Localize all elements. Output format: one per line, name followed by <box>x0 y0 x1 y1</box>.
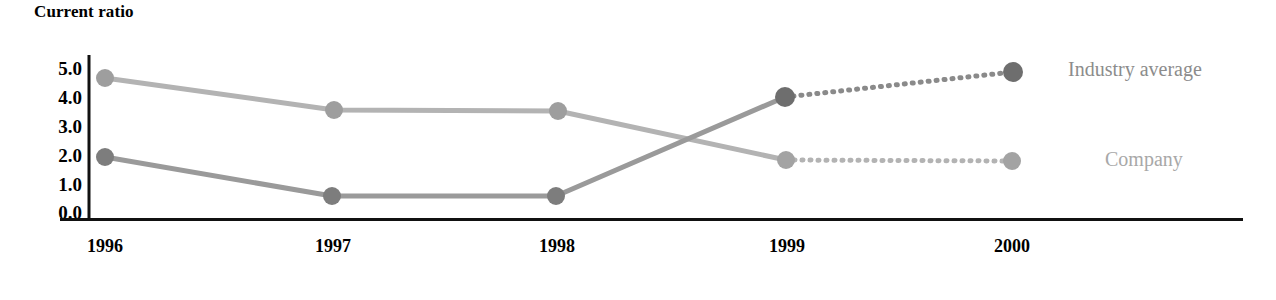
data-point-company-1998 <box>547 187 565 205</box>
legend-label-company: Company <box>1105 148 1183 171</box>
data-point-company-1999 <box>775 87 795 107</box>
data-point-company-1996 <box>96 148 114 166</box>
plot-area <box>0 0 1276 300</box>
series-company <box>96 62 1023 205</box>
x-tick-1999: 1999 <box>769 236 805 257</box>
x-tick-1996: 1996 <box>87 236 123 257</box>
data-point-industry-1996 <box>96 69 114 87</box>
x-tick-1998: 1998 <box>539 236 575 257</box>
current-ratio-chart: Current ratio 5.0 4.0 3.0 2.0 1.0 0.0 <box>0 0 1276 300</box>
data-point-industry-1999 <box>777 151 795 169</box>
data-point-company-1997 <box>323 187 341 205</box>
legend-label-industry-average: Industry average <box>1068 58 1202 81</box>
company-line-dotted <box>785 72 1013 97</box>
industry-average-line-dotted <box>786 160 1012 161</box>
data-point-industry-1998 <box>549 102 567 120</box>
x-tick-2000: 2000 <box>994 236 1030 257</box>
data-point-company-2000 <box>1003 62 1023 82</box>
data-point-industry-2000 <box>1003 152 1021 170</box>
x-tick-1997: 1997 <box>315 236 351 257</box>
data-point-industry-1997 <box>325 101 343 119</box>
industry-average-line-solid <box>105 78 786 160</box>
